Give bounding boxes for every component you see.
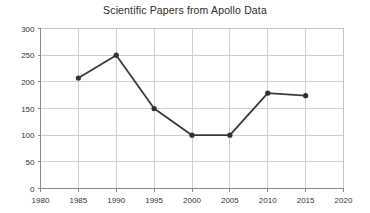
x-tick-label: 2015 [297, 196, 315, 205]
y-tick-label: 300 [21, 25, 35, 34]
data-point-marker [152, 106, 157, 111]
x-tick-label: 1980 [32, 196, 50, 205]
y-tick-label: 250 [21, 51, 35, 60]
x-tick-label: 1995 [145, 196, 163, 205]
x-axis-tick-labels: 198019851990199520002005201020152020 [32, 196, 353, 205]
data-point-marker [265, 90, 270, 95]
gridlines [41, 29, 344, 189]
x-tick-label: 1985 [69, 196, 87, 205]
line-chart-plot: 050100150200250300 198019851990199520002… [0, 0, 370, 213]
x-tick-label: 2020 [335, 196, 353, 205]
data-point-marker [303, 93, 308, 98]
y-tick-label: 100 [21, 131, 35, 140]
y-tick-label: 50 [26, 158, 35, 167]
chart-figure: Scientific Papers from Apollo Data 05010… [0, 0, 370, 213]
x-tick-label: 2005 [221, 196, 239, 205]
tick-marks [38, 29, 344, 192]
data-point-marker [76, 76, 81, 81]
x-tick-label: 1990 [107, 196, 125, 205]
data-point-marker [114, 53, 119, 58]
y-tick-label: 150 [21, 105, 35, 114]
data-point-marker [227, 133, 232, 138]
x-tick-label: 2000 [183, 196, 201, 205]
data-point-marker [189, 133, 194, 138]
x-tick-label: 2010 [259, 196, 277, 205]
y-axis-tick-labels: 050100150200250300 [21, 25, 35, 194]
y-tick-label: 200 [21, 78, 35, 87]
y-tick-label: 0 [30, 185, 35, 194]
